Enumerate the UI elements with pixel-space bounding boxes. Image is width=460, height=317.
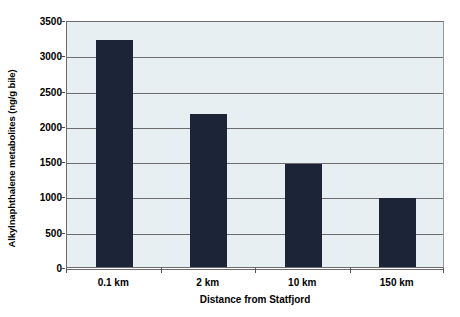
x-axis-tick-label: 10 km (288, 277, 316, 288)
y-axis-tick-label: 3500 (16, 16, 62, 27)
x-axis-tick-marks (66, 268, 444, 274)
y-axis-tick-label: 1000 (16, 192, 62, 203)
bar (190, 114, 227, 267)
y-axis-tick-mark (60, 127, 65, 128)
y-axis-tick-mark (60, 162, 65, 163)
y-axis-tick-label: 3000 (16, 51, 62, 62)
y-axis-tick-label: 500 (16, 227, 62, 238)
bar (285, 164, 322, 267)
y-axis-tick-mark (60, 268, 65, 269)
x-axis-tick-label: 150 km (380, 277, 414, 288)
x-axis-tick-mark (350, 268, 351, 273)
y-axis-tick-mark (60, 92, 65, 93)
plot-area (66, 21, 444, 268)
x-axis-tick-mark (255, 268, 256, 273)
x-axis-tick-mark (443, 268, 444, 273)
y-axis-tick-label: 0 (16, 263, 62, 274)
y-axis-tick-labels: 0500100015002000250030003500 (14, 0, 62, 317)
x-axis-tick-mark (66, 268, 67, 273)
y-axis-tick-label: 2500 (16, 86, 62, 97)
x-axis-title: Distance from Statfjord (66, 294, 444, 305)
x-axis-tick-mark (161, 268, 162, 273)
x-axis-tick-label: 2 km (196, 277, 219, 288)
y-axis-tick-mark (60, 56, 65, 57)
y-axis-tick-label: 2000 (16, 121, 62, 132)
y-axis-tick-mark (60, 233, 65, 234)
y-axis-tick-mark (60, 21, 65, 22)
y-axis-tick-mark (60, 197, 65, 198)
bar-chart: Alkylnaphthalene metabolites (ng/g bile)… (0, 0, 460, 317)
x-axis-tick-label: 0.1 km (98, 277, 129, 288)
x-axis-tick-labels: 0.1 km2 km10 km150 km (66, 277, 444, 291)
bar (379, 198, 416, 267)
y-axis-tick-label: 1500 (16, 157, 62, 168)
bar (96, 40, 133, 267)
